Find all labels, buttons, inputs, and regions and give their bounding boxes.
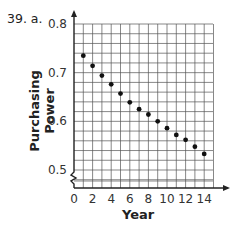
data-point (90, 63, 95, 68)
x-tick-label: 2 (89, 192, 97, 206)
y-tick-label: 0.8 (48, 17, 67, 31)
x-tick-label: 4 (107, 192, 115, 206)
scatter-plot: 0.50.60.70.802468101214 (0, 0, 235, 229)
data-point (155, 119, 160, 124)
y-tick-label: 0.7 (48, 66, 67, 80)
x-tick-label: 14 (197, 192, 212, 206)
data-point (118, 91, 123, 96)
y-tick-label: 0.6 (48, 114, 67, 128)
data-point (127, 100, 132, 105)
x-tick-label: 8 (145, 192, 153, 206)
x-tick-label: 0 (70, 192, 78, 206)
data-point (137, 107, 142, 112)
y-tick-label: 0.5 (48, 163, 67, 177)
y-axis-line (71, 12, 76, 188)
data-point (100, 73, 105, 78)
data-point (174, 133, 179, 138)
data-point (81, 53, 86, 58)
x-tick-label: 12 (178, 192, 193, 206)
data-point (109, 82, 114, 87)
data-point (193, 144, 198, 149)
data-point (202, 152, 207, 157)
x-tick-label: 10 (159, 192, 174, 206)
data-point (146, 112, 151, 117)
y-axis-arrow-icon (71, 10, 77, 17)
data-point (165, 126, 170, 131)
data-point (183, 137, 188, 142)
x-axis-arrow-icon (223, 185, 230, 191)
x-tick-label: 6 (126, 192, 134, 206)
